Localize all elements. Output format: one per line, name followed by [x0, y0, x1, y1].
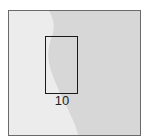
region-of-interest-box: [45, 36, 78, 94]
roi-label: 10: [50, 94, 74, 108]
